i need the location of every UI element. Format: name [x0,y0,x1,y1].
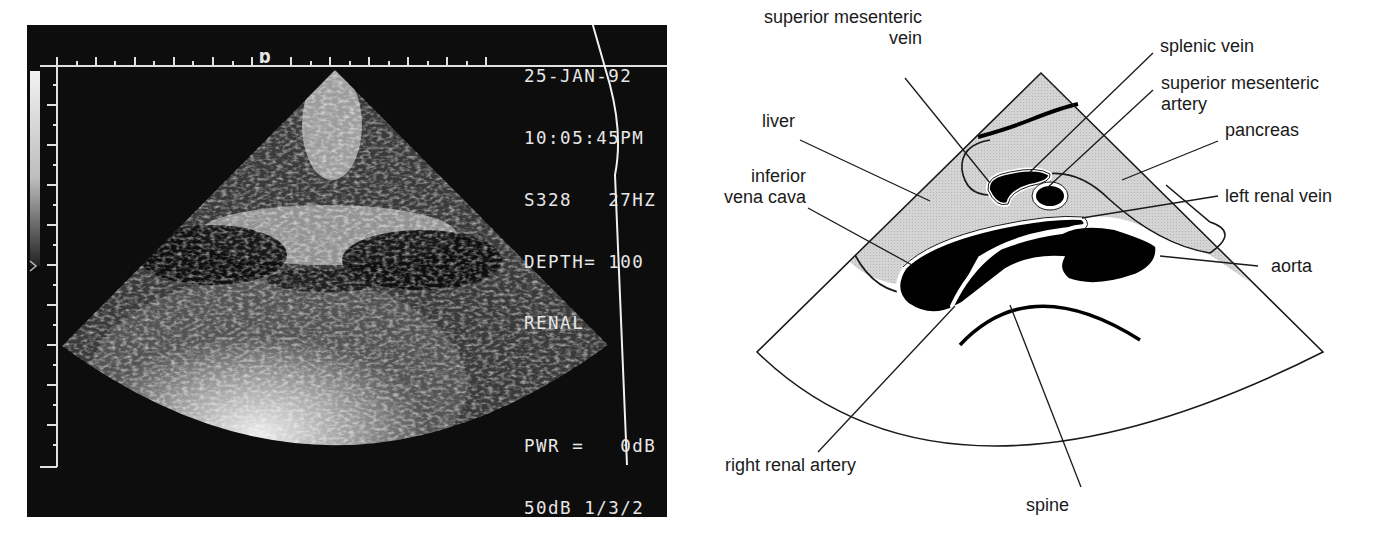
label-superior-mesenteric-artery: superior mesenteric artery [1161,73,1319,115]
label-left-renal-vein: left renal vein [1225,186,1332,207]
orientation-marker-icon: ɒ [259,44,271,68]
anatomy-diagram: superior mesenteric vein liver inferior … [690,0,1380,534]
scanner-readout: 25-JAN-92 10:05:45PM S328 27HZ DEPTH= 10… [524,25,656,517]
ultrasound-image: ɒ 25-JAN-92 10:05:45PM S328 27HZ DEPTH= … [27,25,667,517]
label-spine: spine [1026,495,1069,516]
grayscale-bar [30,71,40,266]
readout-probe-frequency: S328 27HZ [524,190,656,211]
label-aorta: aorta [1271,256,1312,277]
readout-depth: DEPTH= 100 [524,252,656,273]
vertical-depth-ruler [40,66,57,467]
label-liver: liver [762,111,795,132]
readout-date: 25-JAN-92 [524,66,656,87]
spine-arc [960,306,1140,345]
label-right-renal-artery: right renal artery [725,455,856,476]
label-inferior-vena-cava: inferior vena cava [700,166,806,208]
readout-power: PWR = 0dB [524,436,656,457]
label-splenic-vein: splenic vein [1160,36,1254,57]
label-pancreas: pancreas [1225,120,1299,141]
readout-preset: RENAL [524,313,656,334]
label-superior-mesenteric-vein: superior mesenteric vein [720,7,922,49]
readout-time: 10:05:45PM [524,128,656,149]
readout-dynamic-range: 50dB 1/3/2 [524,498,656,517]
superior-mesenteric-artery-shape [1034,184,1066,208]
